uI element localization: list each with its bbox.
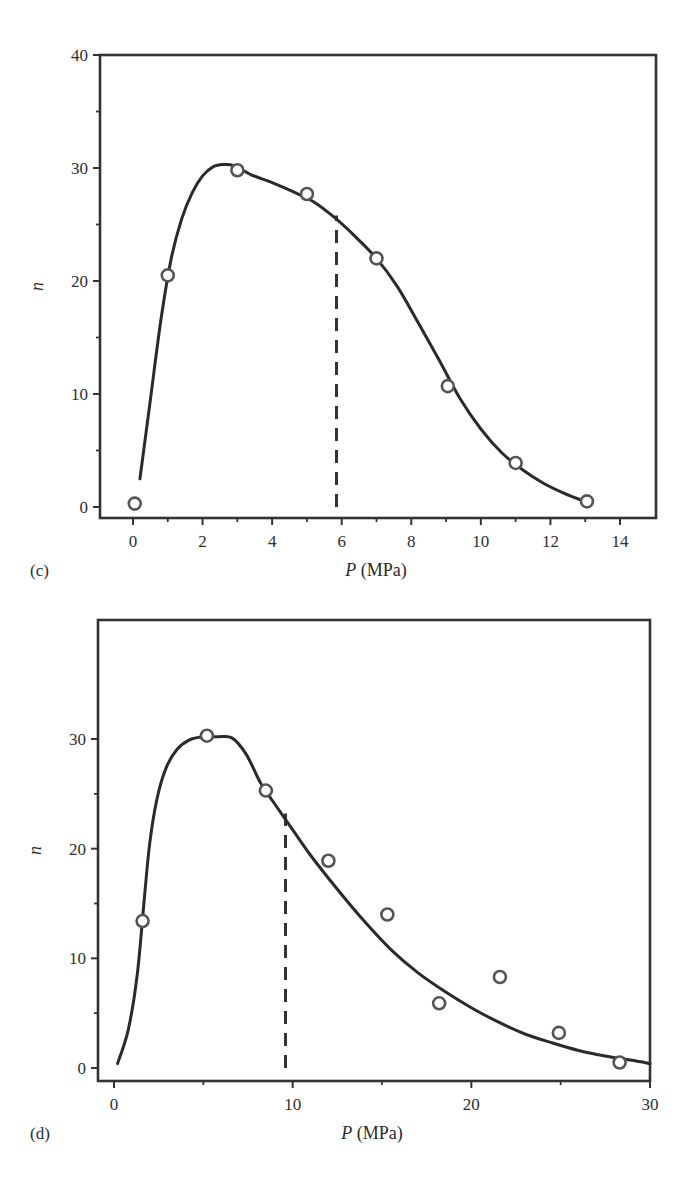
x-tick-label: 14 — [612, 532, 630, 551]
x-tick-label: 0 — [129, 532, 138, 551]
data-point-marker — [201, 730, 213, 742]
x-tick-label: 10 — [284, 1095, 301, 1114]
data-point-marker — [260, 785, 272, 797]
data-point-marker — [553, 1027, 565, 1039]
chart-d: 01020300102030nP (MPa)(d) — [0, 580, 696, 1140]
data-point-marker — [494, 971, 506, 983]
y-tick-label: 30 — [71, 159, 88, 178]
figure-panel-c: 02468101214010203040nP (MPa)(c) — [0, 0, 696, 580]
y-axis-label: n — [27, 282, 47, 291]
chart-c: 02468101214010203040nP (MPa)(c) — [0, 0, 696, 580]
y-tick-label: 0 — [78, 1059, 87, 1078]
data-point-marker — [371, 252, 383, 264]
y-tick-label: 0 — [80, 498, 89, 517]
x-axis-unit: (MPa) — [352, 1123, 403, 1144]
x-tick-label: 6 — [337, 532, 346, 551]
y-tick-label: 10 — [69, 949, 86, 968]
x-tick-label: 8 — [407, 532, 416, 551]
data-point-marker — [581, 495, 593, 507]
x-tick-label: 10 — [472, 532, 489, 551]
x-tick-label: 0 — [110, 1095, 119, 1114]
data-point-marker — [231, 164, 243, 176]
x-tick-label: 4 — [268, 532, 277, 551]
x-axis-variable: P — [340, 1123, 352, 1143]
data-point-marker — [301, 188, 313, 200]
x-axis-label: P (MPa) — [340, 1123, 403, 1144]
y-tick-label: 10 — [71, 385, 88, 404]
plot-area: 01020300102030nP (MPa)(d) — [25, 620, 659, 1144]
fit-curve — [140, 164, 582, 500]
figure-panel-d: 01020300102030nP (MPa)(d) — [0, 580, 696, 1140]
data-point-marker — [433, 997, 445, 1009]
data-point-marker — [381, 908, 393, 920]
data-point-marker — [137, 915, 149, 927]
y-tick-label: 40 — [71, 46, 88, 65]
panel-label: (d) — [30, 1124, 50, 1143]
y-tick-label: 20 — [71, 272, 88, 291]
data-point-marker — [322, 855, 334, 867]
panel-label: (c) — [30, 561, 49, 580]
x-axis-label: P (MPa) — [344, 560, 407, 581]
y-tick-label: 20 — [69, 840, 86, 859]
x-tick-label: 20 — [463, 1095, 480, 1114]
x-tick-label: 2 — [198, 532, 207, 551]
y-tick-label: 30 — [69, 730, 86, 749]
data-point-marker — [510, 457, 522, 469]
plot-area: 02468101214010203040nP (MPa)(c) — [27, 46, 656, 581]
x-axis-variable: P — [344, 560, 356, 580]
plot-frame — [100, 55, 656, 518]
data-point-marker — [162, 269, 174, 281]
x-tick-label: 12 — [542, 532, 559, 551]
fit-curve — [118, 736, 650, 1063]
x-tick-label: 30 — [642, 1095, 659, 1114]
data-point-marker — [129, 498, 141, 510]
data-point-marker — [614, 1057, 626, 1069]
data-point-marker — [442, 380, 454, 392]
y-axis-label: n — [25, 846, 45, 855]
plot-frame — [98, 620, 650, 1081]
x-axis-unit: (MPa) — [356, 560, 407, 581]
